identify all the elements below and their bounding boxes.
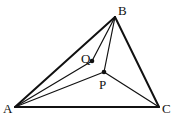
label-Q: Q xyxy=(81,51,91,66)
label-A: A xyxy=(3,101,13,116)
segment-AP xyxy=(15,72,104,107)
point-P xyxy=(102,70,107,75)
segment-BQ xyxy=(92,17,115,61)
segment-AB xyxy=(15,17,115,107)
label-P: P xyxy=(99,77,106,92)
segment-AQ xyxy=(15,61,92,107)
label-B: B xyxy=(118,3,127,18)
label-C: C xyxy=(162,101,171,116)
triangle-diagram: B A C Q P xyxy=(0,0,173,117)
